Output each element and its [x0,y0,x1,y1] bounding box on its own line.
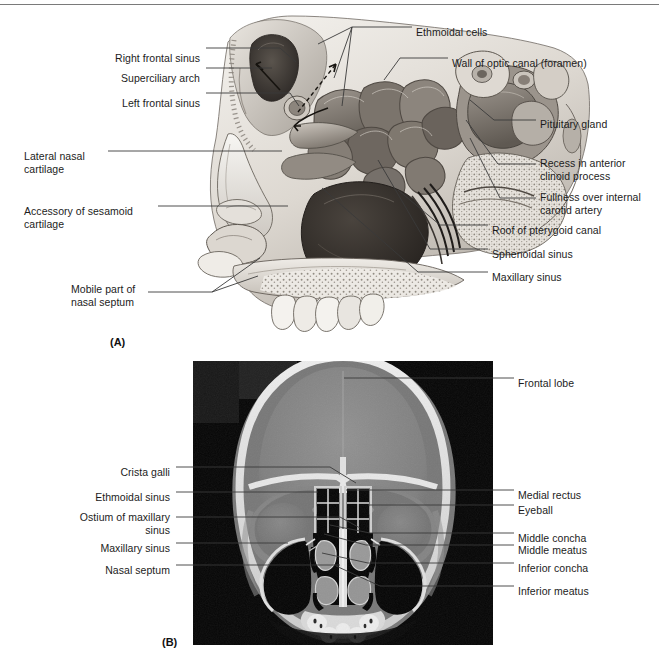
panel-b-tag: (B) [162,636,177,648]
panel-b-label-left-nasal-septum: Nasal septum [105,564,170,577]
panel-b-label-left-ostium-of-maxillary-sinus: Ostium of maxillary sinus [80,511,170,536]
panel-a-label-right-wall-of-optic-canal-foramen: Wall of optic canal (foramen) [452,57,587,70]
top-divider-rule [0,4,659,5]
panel-a-label-left-left-frontal-sinus: Left frontal sinus [122,97,200,110]
panel-a-label-left-superciliary-arch: Superciliary arch [121,72,200,85]
panel-b-label-right-frontal-lobe: Frontal lobe [518,377,574,390]
panel-b-label-right-eyeball: Eyeball [518,504,553,517]
panel-a-label-left-accessory-of-sesamoid-cartilage: Accessory of sesamoid cartilage [24,205,133,230]
panel-a-label-left-right-frontal-sinus: Right frontal sinus [115,52,200,65]
panel-b-label-right-middle-concha: Middle concha [518,532,586,545]
panel-b-label-left-maxillary-sinus: Maxillary sinus [100,542,170,555]
panel-b-label-right-inferior-meatus: Inferior meatus [518,585,589,598]
panel-a-label-right-sphenoidal-sinus: Sphenoidal sinus [492,248,573,261]
panel-a-label-right-ethmoidal-cells: Ethmoidal cells [416,26,487,39]
panel-b-label-right-medial-rectus: Medial rectus [518,489,581,502]
panel-a-label-right-pituitary-gland: Pituitary gland [540,118,607,131]
panel-b-label-right-middle-meatus: Middle meatus [518,544,587,557]
figure-page: Right frontal sinusSuperciliary archLeft… [0,0,659,660]
panel-a-label-right-roof-of-pterygoid-canal: Roof of pterygoid canal [492,224,601,237]
panel-a-label-right-fullness-over-internal-carotid-artery: Fullness over internal carotid artery [540,191,641,216]
coronal-ct-paranasal-sinuses [193,361,493,645]
panel-b-label-right-inferior-concha: Inferior concha [518,562,588,575]
panel-a-label-right-recess-in-anterior-clinoid-process: Recess in anterior clinoid process [540,157,626,182]
panel-a-label-right-maxillary-sinus: Maxillary sinus [492,271,562,284]
panel-a-tag: (A) [110,336,125,348]
panel-b-label-left-ethmoidal-sinus: Ethmoidal sinus [95,491,170,504]
panel-a-label-left-mobile-part-of-nasal-septum: Mobile part of nasal septum [71,283,135,308]
panel-a-label-left-lateral-nasal-cartilage: Lateral nasal cartilage [24,150,85,175]
panel-b-label-left-crista-galli: Crista galli [120,466,170,479]
